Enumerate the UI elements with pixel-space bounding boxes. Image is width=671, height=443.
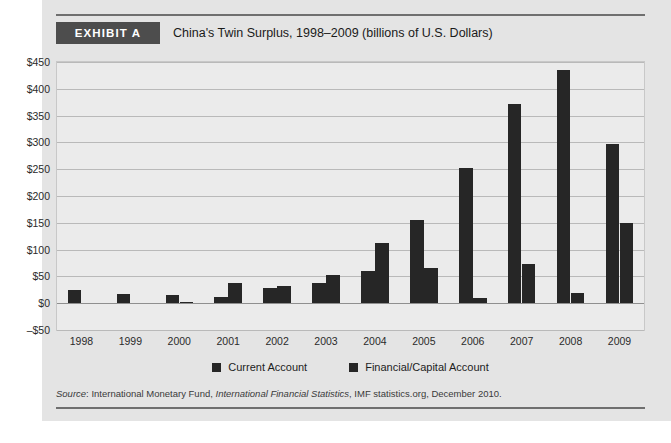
y-axis-tick-label: $400 xyxy=(6,83,50,95)
x-axis-tick-label: 1998 xyxy=(70,335,93,347)
x-axis-tick-label: 2000 xyxy=(168,335,191,347)
y-axis-tick-label: $100 xyxy=(6,244,50,256)
bar-2009-series2 xyxy=(620,223,634,303)
plot-inner xyxy=(57,62,644,330)
bar-2007-series1 xyxy=(508,104,522,303)
bar-1999-series1 xyxy=(117,294,131,303)
bar-2008-series2 xyxy=(571,293,585,303)
bar-2000-series1 xyxy=(166,295,180,303)
y-axis: $450$400$350$300$250$200$150$100$50$0–$5… xyxy=(6,61,50,331)
bottom-rule xyxy=(56,407,645,409)
x-axis-tick-label: 2001 xyxy=(217,335,240,347)
source-publisher: International Monetary Fund, xyxy=(89,388,216,399)
y-axis-tick-label: –$50 xyxy=(6,324,50,336)
bar-2004-series1 xyxy=(361,271,375,303)
y-axis-tick-label: $350 xyxy=(6,110,50,122)
y-axis-tick-label: $150 xyxy=(6,217,50,229)
legend-item-financial-capital-account: Financial/Capital Account xyxy=(349,361,489,373)
chart-figure: $450$400$350$300$250$200$150$100$50$0–$5… xyxy=(56,61,645,381)
y-axis-tick-label: $200 xyxy=(6,190,50,202)
bar-2006-series2 xyxy=(473,298,487,303)
bar-2001-series1 xyxy=(214,297,228,303)
exhibit-title: China's Twin Surplus, 1998–2009 (billion… xyxy=(173,22,493,44)
exhibit-page: EXHIBIT A China's Twin Surplus, 1998–200… xyxy=(0,0,671,443)
y-axis-tick-label: $50 xyxy=(6,270,50,282)
bar-2001-series2 xyxy=(228,283,242,303)
bar-2003-series2 xyxy=(326,275,340,303)
exhibit-badge: EXHIBIT A xyxy=(56,22,160,44)
y-axis-tick-label: $0 xyxy=(6,297,50,309)
page-bottom-margin xyxy=(0,421,671,443)
gridline xyxy=(57,62,644,63)
bar-2009-series1 xyxy=(606,144,620,303)
bar-2000-series2 xyxy=(180,302,194,303)
x-axis-tick-label: 2008 xyxy=(559,335,582,347)
legend-swatch-icon xyxy=(349,363,358,372)
gridline xyxy=(57,330,644,331)
legend-swatch-icon xyxy=(212,363,221,372)
chart-legend: Current Account Financial/Capital Accoun… xyxy=(56,359,645,375)
bar-2002-series1 xyxy=(263,288,277,303)
y-axis-tick-label: $450 xyxy=(6,56,50,68)
x-axis: 1998199920002001200220032004200520062007… xyxy=(56,335,645,353)
x-axis-tick-label: 2006 xyxy=(461,335,484,347)
bar-2006-series1 xyxy=(459,168,473,304)
legend-label: Current Account xyxy=(228,361,307,373)
bar-2007-series2 xyxy=(522,264,536,303)
bar-2005-series2 xyxy=(424,268,438,303)
source-publication: International Financial Statistics xyxy=(216,388,350,399)
plot-area xyxy=(56,61,645,331)
top-rule xyxy=(56,14,645,16)
x-axis-tick-label: 2003 xyxy=(314,335,337,347)
zero-axis-line xyxy=(57,303,644,304)
y-axis-tick-label: $250 xyxy=(6,163,50,175)
source-suffix: , IMF statistics.org, December 2010. xyxy=(349,388,502,399)
x-axis-tick-label: 2009 xyxy=(608,335,631,347)
legend-item-current-account: Current Account xyxy=(212,361,307,373)
x-axis-tick-label: 1999 xyxy=(119,335,142,347)
bar-2004-series2 xyxy=(375,243,389,304)
bar-1998-series1 xyxy=(68,290,82,303)
bar-2002-series2 xyxy=(277,286,291,304)
legend-label: Financial/Capital Account xyxy=(365,361,489,373)
y-axis-tick-label: $300 xyxy=(6,136,50,148)
x-axis-tick-label: 2005 xyxy=(412,335,435,347)
source-note: Source: International Monetary Fund, Int… xyxy=(56,388,645,399)
x-axis-tick-label: 2007 xyxy=(510,335,533,347)
x-axis-tick-label: 2004 xyxy=(363,335,386,347)
x-axis-tick-label: 2002 xyxy=(265,335,288,347)
source-prefix: Source xyxy=(56,388,86,399)
bar-2008-series1 xyxy=(557,70,571,304)
bar-2005-series1 xyxy=(410,220,424,303)
bar-2003-series1 xyxy=(312,283,326,303)
exhibit-header: EXHIBIT A China's Twin Surplus, 1998–200… xyxy=(56,22,645,44)
